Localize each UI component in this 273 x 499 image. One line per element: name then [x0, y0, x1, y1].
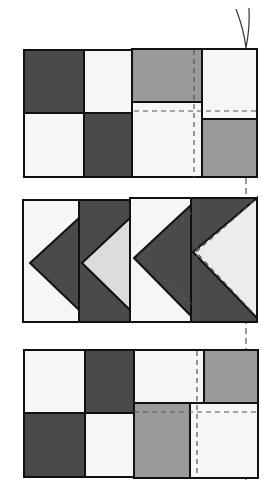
four-patch-row-bottom [24, 350, 258, 478]
flying-geese-row [23, 198, 257, 322]
thread-tail-icon [236, 8, 249, 48]
four-patch-row-top [24, 49, 257, 177]
quilt-diagram [0, 0, 273, 499]
